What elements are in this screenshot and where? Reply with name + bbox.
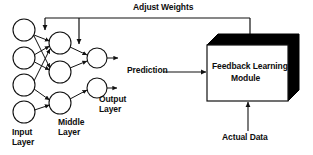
module-label-line2: Module	[231, 74, 260, 84]
module-right-face	[288, 34, 299, 101]
input-node-4	[13, 101, 35, 123]
input-layer-label: Input Layer	[12, 128, 34, 147]
output-node-1	[87, 48, 107, 68]
input-node-3	[13, 74, 35, 96]
middle-to-output-connections	[70, 47, 87, 99]
edge-m1-o1	[70, 47, 87, 55]
prediction-label: Prediction	[127, 66, 168, 76]
edge-m3-o2	[70, 90, 87, 99]
middle-node-2	[49, 61, 71, 83]
middle-layer-label: Middle Layer	[58, 118, 84, 137]
edge-m2-o1	[70, 61, 87, 68]
edge-i3-m3	[34, 89, 50, 100]
module-top-face	[207, 34, 299, 45]
diagram-canvas: Adjust Weights Prediction Actual Data In…	[0, 0, 313, 155]
actual-data-label: Actual Data	[222, 133, 268, 143]
output-layer-nodes	[87, 48, 107, 98]
input-layer-nodes	[13, 19, 35, 123]
middle-node-3	[49, 92, 71, 114]
module-label-line1: Feedback Learning	[212, 62, 288, 72]
output-arrows	[107, 58, 118, 88]
edge-i4-m3	[35, 105, 50, 110]
output-layer-label: Output Layer	[99, 95, 126, 114]
middle-layer-nodes	[49, 32, 71, 114]
middle-node-1	[49, 32, 71, 54]
adjust-weights-label: Adjust Weights	[133, 3, 193, 13]
input-to-middle-connections	[34, 35, 50, 110]
input-node-2	[13, 47, 35, 69]
input-node-1	[13, 19, 35, 41]
